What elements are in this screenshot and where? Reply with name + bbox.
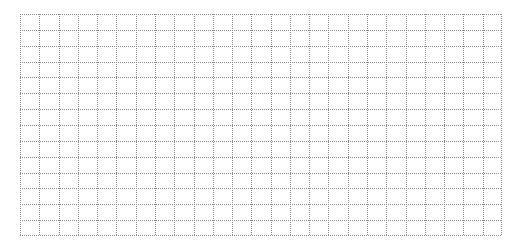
grid-lines (20, 14, 502, 236)
grid-canvas (20, 14, 502, 236)
